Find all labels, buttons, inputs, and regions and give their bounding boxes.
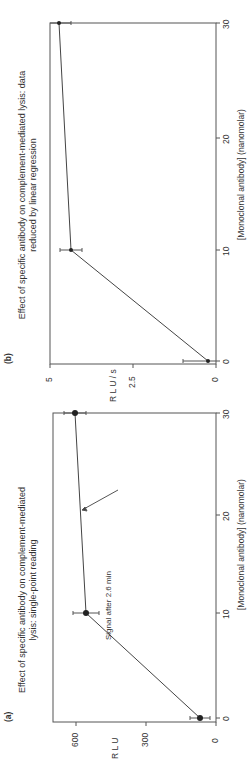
- panel-a-title-line1: Effect of specific antibody on complemen…: [17, 460, 28, 720]
- panel-a-points: [72, 410, 203, 721]
- panel-b-xtick: 20: [221, 135, 231, 144]
- panel-a-xtick: 10: [221, 610, 231, 619]
- panel-a-y-axis-label: R L U: [110, 738, 120, 759]
- panel-b-title-line1: Effect of specific antibody on complemen…: [17, 50, 28, 340]
- panel-b-plot: [50, 21, 220, 368]
- panel-b-xtick: 10: [221, 247, 231, 256]
- panel-a-ytick: 300: [140, 733, 150, 747]
- panel-b-ytick: 2.5: [127, 376, 137, 388]
- panel-a-xtick: 30: [221, 410, 231, 419]
- panel-a-xtick: 20: [221, 512, 231, 521]
- panel-b-x-axis-label: [Monoclonal antibody] (nanomolar): [236, 109, 246, 240]
- panel-b-y-axis-label: R L U / s: [108, 369, 118, 402]
- rotated-figure: (a) Effect of specific antibody on compl…: [0, 0, 249, 760]
- panel-b-xtick: 0: [221, 359, 231, 364]
- panel-b-ytick: 0: [210, 377, 220, 382]
- panel-b-ytick: 5: [44, 377, 54, 382]
- panel-a-plot: [53, 411, 220, 726]
- panel-b-title: Effect of specific antibody on complemen…: [17, 50, 39, 340]
- panel-a-xtick: 0: [221, 716, 231, 721]
- panel-a-x-axis-label: [Monoclonal antibody] (nanomolar): [236, 479, 246, 610]
- panel-b-label: (b): [3, 353, 13, 364]
- panel-a-label: (a): [3, 712, 13, 722]
- panel-a-annotation: Signal after 2.6 min: [104, 571, 113, 640]
- panel-a-ytick: 0: [210, 738, 220, 743]
- panel-a-ytick: 600: [70, 733, 80, 747]
- panel-a-title-line2: lysis: single-point reading: [28, 460, 39, 720]
- panel-b-xtick: 30: [221, 20, 231, 29]
- panel-a-title: Effect of specific antibody on complemen…: [17, 460, 39, 720]
- panel-b-points: [57, 21, 210, 363]
- panel-b-title-line2: reduced by linear regression: [28, 50, 39, 340]
